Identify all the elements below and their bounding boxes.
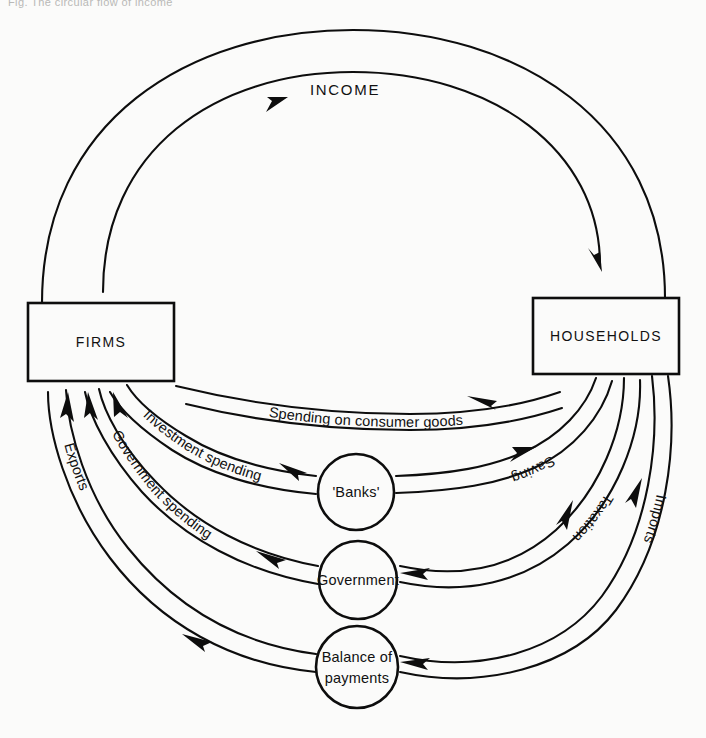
taxation-arrowhead-gov — [400, 568, 430, 580]
banks-node[interactable]: 'Banks' — [318, 454, 394, 530]
firms-node[interactable]: FIRMS — [28, 303, 174, 381]
balance-of-payments-label-line2: payments — [325, 670, 389, 686]
outer-ring-group — [42, 30, 665, 303]
balance-of-payments-node[interactable]: Balance of payments — [316, 626, 398, 708]
taxation-label: Taxation — [570, 492, 617, 546]
investment-spending-label-text: Investment spending — [140, 407, 263, 484]
households-label: HOUSEHOLDS — [550, 328, 662, 344]
imports-arrowhead — [625, 478, 642, 508]
income-flow-group: INCOME — [103, 72, 602, 292]
households-node[interactable]: HOUSEHOLDS — [533, 298, 679, 374]
exports-arrowhead — [182, 634, 212, 652]
spending-consumer-goods-label: Spending on consumer goods — [268, 404, 464, 430]
exports-label: Exports — [61, 441, 92, 493]
banks-label: 'Banks' — [332, 484, 379, 500]
spending-consumer-goods-arrowhead — [467, 396, 497, 410]
income-label: INCOME — [310, 81, 380, 98]
saving-flow-group: Saving — [396, 378, 612, 493]
saving-arc-inner — [396, 381, 612, 493]
outer-arc-top — [42, 30, 665, 303]
government-label: Government — [317, 572, 399, 588]
income-arrowhead-left — [266, 97, 288, 112]
balance-of-payments-label-line1: Balance of — [322, 649, 393, 665]
exports-label-text: Exports — [61, 441, 92, 493]
flow-diagram-canvas: INCOME Spending on consumer goods Saving — [0, 0, 706, 738]
government-node[interactable]: Government — [317, 541, 399, 619]
exports-arrowhead-box — [60, 392, 74, 422]
spending-consumer-goods-label-text: Spending on consumer goods — [268, 404, 464, 430]
exports-flow-group: Exports — [48, 390, 318, 672]
taxation-label-text: Taxation — [570, 492, 617, 546]
balance-of-payments-circle[interactable] — [316, 626, 398, 708]
spending-consumer-goods-group: Spending on consumer goods — [176, 386, 564, 430]
investment-spending-arrowhead-box — [113, 392, 128, 418]
income-arc — [103, 72, 600, 292]
circular-flow-diagram: Fig. The circular flow of income INCOME … — [0, 0, 706, 738]
firms-label: FIRMS — [76, 334, 127, 350]
saving-arrowhead — [510, 447, 536, 462]
investment-spending-label: Investment spending — [140, 407, 263, 484]
spending-consumer-goods-arc-outer — [176, 386, 560, 414]
